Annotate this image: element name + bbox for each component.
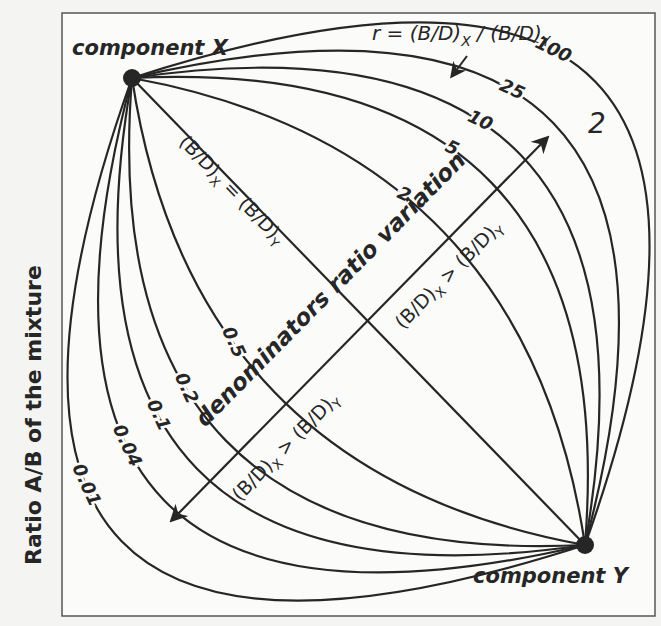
component-y-label: component Y [473, 564, 630, 588]
component-x-point [123, 69, 141, 87]
y-axis-label: Ratio A/B of the mixture [21, 265, 46, 565]
component-x-label: component X [72, 36, 230, 60]
component-y-point [576, 536, 594, 554]
panel-number: 2 [588, 107, 606, 140]
mixing-diagram: Ratio A/B of the mixture 1002510520.50.2… [0, 0, 661, 626]
